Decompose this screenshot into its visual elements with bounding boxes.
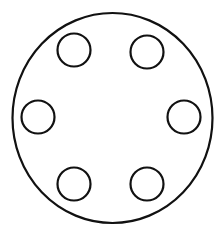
hole-top-right — [131, 36, 164, 69]
hole-bottom-right — [131, 168, 164, 201]
holes-group — [22, 34, 201, 201]
bolt-circle-diagram — [0, 0, 224, 235]
hole-right — [168, 101, 201, 134]
hole-top-left — [58, 34, 91, 67]
hole-left — [22, 101, 55, 134]
hole-bottom-left — [58, 168, 91, 201]
outer-circle — [13, 13, 213, 223]
